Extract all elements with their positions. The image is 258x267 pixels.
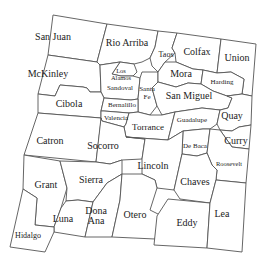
new-mexico-county-map: San Juan Rio Arriba Taos Colfax Union Mc… <box>0 0 258 267</box>
label-colfax: Colfax <box>183 46 210 57</box>
label-torrance: Torrance <box>132 122 164 132</box>
label-sierra: Sierra <box>79 174 103 185</box>
label-dona-ana-2: Ana <box>88 215 105 226</box>
label-eddy: Eddy <box>176 217 197 228</box>
label-de-baca: De Baca <box>183 142 208 150</box>
label-chaves: Chaves <box>180 176 210 187</box>
label-valencia: Valencia <box>104 114 129 122</box>
label-los-alamos-1: Los <box>116 67 126 74</box>
label-santa-fe-2: Fe <box>144 93 151 101</box>
label-otero: Otero <box>124 209 147 220</box>
label-guadalupe: Guadalupe <box>177 116 207 124</box>
label-harding: Harding <box>211 78 234 86</box>
label-cibola: Cibola <box>56 98 83 109</box>
label-mckinley: McKinley <box>28 68 69 79</box>
label-lincoln: Lincoln <box>137 160 168 171</box>
label-santa-fe-1: Santa <box>139 85 155 93</box>
label-lea: Lea <box>215 208 231 219</box>
label-catron: Catron <box>36 135 63 146</box>
label-roosevelt: Roosevelt <box>216 160 242 167</box>
label-grant: Grant <box>35 179 58 190</box>
label-hidalgo: Hidalgo <box>15 231 41 240</box>
label-san-juan: San Juan <box>35 31 71 42</box>
label-san-miguel: San Miguel <box>166 90 213 101</box>
label-mora: Mora <box>170 68 192 79</box>
label-taos: Taos <box>159 50 174 59</box>
label-luna: Luna <box>53 213 74 224</box>
label-los-alamos-2: Alamos <box>111 74 132 81</box>
label-sandoval: Sandoval <box>107 84 133 92</box>
label-socorro: Socorro <box>87 140 119 151</box>
label-quay: Quay <box>221 110 243 121</box>
label-rio-arriba: Rio Arriba <box>106 37 149 48</box>
label-curry: Curry <box>224 135 247 146</box>
label-union: Union <box>225 52 250 63</box>
label-bernalillo: Bernalillo <box>108 101 136 109</box>
